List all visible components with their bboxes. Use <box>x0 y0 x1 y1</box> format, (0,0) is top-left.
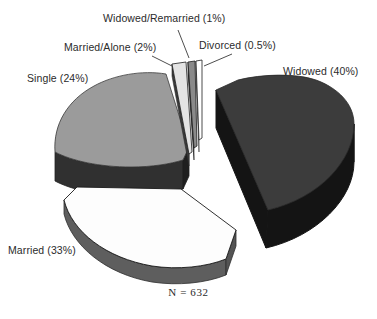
slice-label-widowed: Widowed (40%) <box>283 65 358 77</box>
slice-label-widowed-remarried: Widowed/Remarried (1%) <box>103 12 225 24</box>
leader-line-married-alone <box>152 56 172 66</box>
pie-slice-widowed[interactable] <box>216 75 354 248</box>
leader-line-widowed-remarried <box>178 30 189 58</box>
pie-chart-graphic <box>0 0 377 319</box>
sample-size-caption: N = 632 <box>0 286 377 298</box>
slice-label-single: Single (24%) <box>27 72 88 84</box>
pie-slice-single[interactable] <box>55 73 189 196</box>
pie-chart: Widowed/Remarried (1%) Married/Alone (2%… <box>0 0 377 319</box>
leader-line-divorced <box>204 54 232 66</box>
slice-label-divorced: Divorced (0.5%) <box>199 39 276 51</box>
slice-label-married-alone: Married/Alone (2%) <box>64 41 156 53</box>
pie-slice-married-top <box>64 187 236 268</box>
pie-slice-married[interactable] <box>64 187 236 284</box>
pie-slice-single-top <box>55 73 189 167</box>
slice-label-married: Married (33%) <box>8 244 76 256</box>
